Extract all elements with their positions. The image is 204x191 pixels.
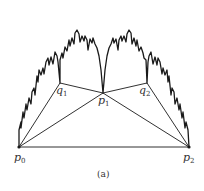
figure-caption: (a) bbox=[97, 169, 109, 179]
label-p2: p2 bbox=[183, 151, 195, 165]
vertex-p2 bbox=[187, 145, 190, 148]
fractal-curve bbox=[19, 30, 189, 147]
label-q1: q1 bbox=[56, 84, 68, 98]
triangulation-lines bbox=[19, 83, 189, 147]
vertex-p0 bbox=[17, 145, 20, 148]
label-p0: p0 bbox=[14, 151, 26, 165]
segment-p0-q1 bbox=[19, 83, 60, 147]
fractal-diagram: p0 p2 p1 q1 q2 (a) bbox=[0, 0, 204, 191]
